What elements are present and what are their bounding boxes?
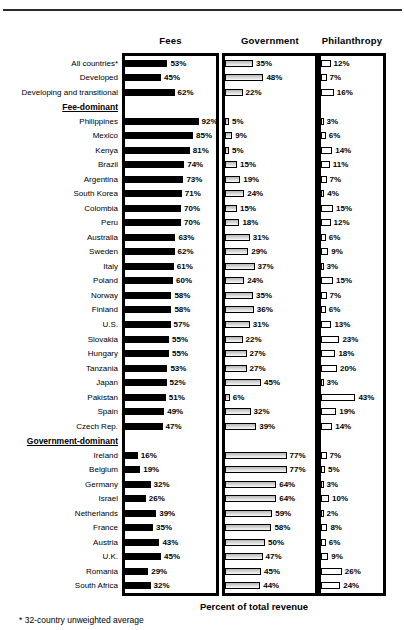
philanthropy-bar xyxy=(321,205,333,212)
fees-value-label: 53% xyxy=(170,56,186,71)
country-label: Hungary xyxy=(0,346,118,361)
philanthropy-bar xyxy=(321,161,330,168)
column-header-philanthropy: Philanthropy xyxy=(318,35,386,46)
country-row: Developed45%48%7% xyxy=(0,71,404,86)
government-value-label: 5% xyxy=(232,114,244,129)
government-value-label: 15% xyxy=(240,158,256,173)
country-label: Japan xyxy=(0,375,118,390)
country-row: Israel26%64%10% xyxy=(0,491,404,506)
government-bar xyxy=(225,365,247,372)
fees-bar xyxy=(125,321,171,328)
government-value-label: 64% xyxy=(279,491,295,506)
government-bar xyxy=(225,568,261,575)
fees-value-label: 47% xyxy=(166,419,182,434)
philanthropy-bar xyxy=(321,379,324,386)
philanthropy-bar xyxy=(321,423,332,430)
country-label: Pakistan xyxy=(0,390,118,405)
fees-value-label: 60% xyxy=(176,274,192,289)
philanthropy-value-label: 2% xyxy=(327,506,339,521)
fees-value-label: 16% xyxy=(141,448,157,463)
fees-value-label: 51% xyxy=(169,390,185,405)
fees-bar xyxy=(125,568,148,575)
fees-value-label: 61% xyxy=(177,259,193,274)
philanthropy-value-label: 24% xyxy=(343,578,359,593)
philanthropy-value-label: 13% xyxy=(334,317,350,332)
country-label: Colombia xyxy=(0,201,118,216)
country-row: Japan52%45%3% xyxy=(0,375,404,390)
fees-bar xyxy=(125,408,164,415)
government-bar xyxy=(225,408,251,415)
country-row: South Korea71%24%4% xyxy=(0,187,404,202)
country-label: South Korea xyxy=(0,187,118,202)
fees-bar xyxy=(125,495,146,502)
fees-bar xyxy=(125,481,151,488)
country-row: Finland58%36%6% xyxy=(0,303,404,318)
philanthropy-bar xyxy=(321,190,324,197)
philanthropy-bar xyxy=(321,394,355,401)
fees-value-label: 19% xyxy=(143,462,159,477)
government-bar xyxy=(225,350,247,357)
philanthropy-bar xyxy=(321,553,328,560)
philanthropy-bar xyxy=(321,568,342,575)
government-bar xyxy=(225,277,244,284)
government-bar xyxy=(225,495,276,502)
country-row: U.S.57%31%13% xyxy=(0,317,404,332)
government-bar xyxy=(225,205,237,212)
government-bar xyxy=(225,466,287,473)
country-row: Brazil74%15%11% xyxy=(0,158,404,173)
government-bar xyxy=(225,452,287,459)
fees-value-label: 53% xyxy=(170,361,186,376)
country-label: Netherlands xyxy=(0,506,118,521)
government-value-label: 64% xyxy=(279,477,295,492)
government-bar xyxy=(225,74,263,81)
fees-value-label: 55% xyxy=(172,346,188,361)
government-bar xyxy=(225,379,261,386)
philanthropy-bar xyxy=(321,263,324,270)
philanthropy-bar xyxy=(321,306,326,313)
country-row: Australia63%31%6% xyxy=(0,230,404,245)
fees-value-label: 85% xyxy=(196,129,212,144)
fees-bar xyxy=(125,306,171,313)
philanthropy-value-label: 6% xyxy=(329,129,341,144)
philanthropy-bar xyxy=(321,321,331,328)
government-value-label: 77% xyxy=(290,462,306,477)
fees-bar xyxy=(125,248,175,255)
country-label: Italy xyxy=(0,259,118,274)
fees-bar xyxy=(125,336,169,343)
philanthropy-value-label: 18% xyxy=(338,346,354,361)
fees-bar xyxy=(125,466,140,473)
government-bar xyxy=(225,539,265,546)
fees-value-label: 45% xyxy=(164,71,180,86)
fees-bar xyxy=(125,553,161,560)
country-row: Developing and transitional62%22%16% xyxy=(0,85,404,100)
fees-value-label: 32% xyxy=(154,578,170,593)
fees-bar xyxy=(125,89,175,96)
fees-bar xyxy=(125,219,181,226)
country-label: South Africa xyxy=(0,578,118,593)
country-label: All countries* xyxy=(0,56,118,71)
government-value-label: 39% xyxy=(259,419,275,434)
government-bar xyxy=(225,423,256,430)
country-row: U.K.45%47%9% xyxy=(0,549,404,564)
philanthropy-value-label: 19% xyxy=(339,404,355,419)
country-label: Argentina xyxy=(0,172,118,187)
government-value-label: 15% xyxy=(240,201,256,216)
country-label: Peru xyxy=(0,216,118,231)
fees-bar xyxy=(125,423,163,430)
country-label: Spain xyxy=(0,404,118,419)
government-value-label: 5% xyxy=(232,143,244,158)
fees-value-label: 71% xyxy=(185,187,201,202)
government-bar xyxy=(225,190,244,197)
philanthropy-value-label: 14% xyxy=(335,143,351,158)
fees-value-label: 58% xyxy=(174,288,190,303)
philanthropy-value-label: 4% xyxy=(327,187,339,202)
government-bar xyxy=(225,132,232,139)
fees-bar xyxy=(125,234,175,241)
country-row: Slovakia55%22%23% xyxy=(0,332,404,347)
fees-bar xyxy=(125,292,171,299)
philanthropy-value-label: 10% xyxy=(332,491,348,506)
government-bar xyxy=(225,263,255,270)
government-value-label: 77% xyxy=(290,448,306,463)
fees-value-label: 62% xyxy=(178,245,194,260)
government-value-label: 44% xyxy=(263,578,279,593)
